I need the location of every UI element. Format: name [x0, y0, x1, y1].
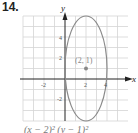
- equation-partial: (x − 2)² (y − 1)²: [24, 124, 88, 133]
- tick-x-2: 2: [84, 82, 87, 88]
- tick-y-4: 4: [59, 35, 62, 41]
- center-point: [84, 67, 88, 71]
- tick-x-4: 4: [104, 82, 107, 88]
- y-axis-label: y: [60, 3, 65, 13]
- x-axis-label: x: [131, 74, 136, 84]
- grid: [23, 16, 128, 121]
- tick-x-neg2: -2: [41, 82, 46, 88]
- center-label: (2, 1): [75, 56, 93, 65]
- ellipse-graph: x y (2, 1) -2 2 4 4 2 -2: [0, 0, 138, 133]
- tick-y-2: 2: [59, 55, 62, 61]
- tick-y-neg2: -2: [57, 96, 62, 102]
